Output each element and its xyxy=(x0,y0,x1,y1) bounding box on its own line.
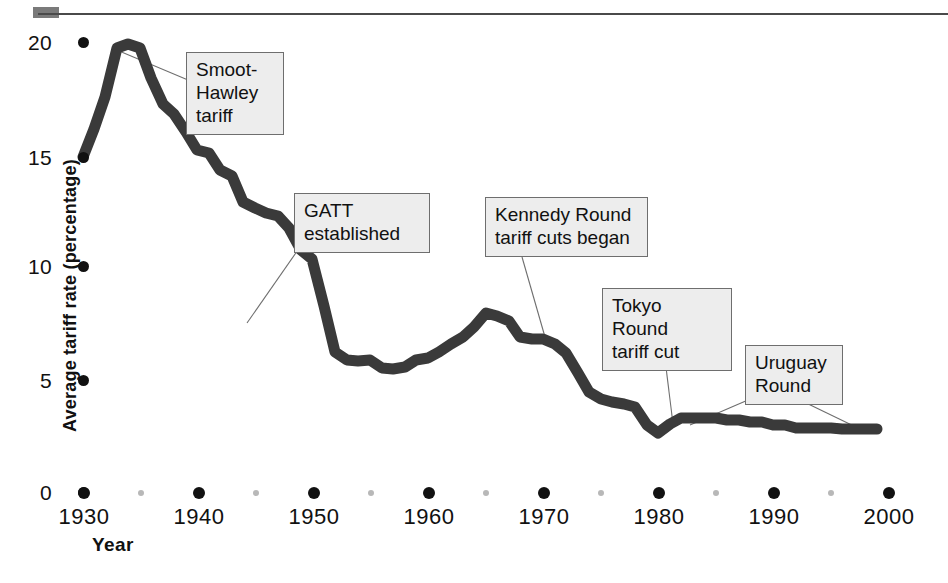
x-tick-dot-1995 xyxy=(828,490,834,496)
y-axis-title: Average tariff rate (percentage) xyxy=(60,136,81,456)
x-tick-label-1950: 1950 xyxy=(274,506,354,528)
annotation-smoot-hawley: Smoot- Hawley tariff xyxy=(186,52,284,135)
x-tick-dot-1955 xyxy=(368,490,374,496)
x-tick-dot-1960 xyxy=(423,487,435,499)
x-tick-dot-2000 xyxy=(883,487,895,499)
x-tick-dot-1970 xyxy=(538,487,550,499)
annotation-gatt: GATT established xyxy=(294,193,430,253)
y-tick-label-20: 20 xyxy=(8,32,52,53)
y-tick-dot-20 xyxy=(78,37,89,48)
x-tick-dot-1965 xyxy=(483,490,489,496)
y-tick-label-15: 15 xyxy=(8,147,52,168)
y-tick-label-5: 5 xyxy=(8,370,52,391)
leader-line-kennedy xyxy=(522,257,545,337)
y-tick-label-10: 10 xyxy=(8,256,52,277)
x-tick-label-1970: 1970 xyxy=(504,506,584,528)
x-tick-dot-1935 xyxy=(138,490,144,496)
x-tick-label-1960: 1960 xyxy=(389,506,469,528)
tariff-rate-figure: 20 15 10 5 0 1930 1940 1950 1960 1970 19… xyxy=(0,0,948,583)
x-tick-dot-1945 xyxy=(253,490,259,496)
x-tick-dot-1985 xyxy=(713,490,719,496)
x-axis-title: Year xyxy=(92,534,134,556)
x-tick-label-1940: 1940 xyxy=(159,506,239,528)
y-tick-label-0: 0 xyxy=(8,482,52,503)
x-tick-dot-1990 xyxy=(768,487,780,499)
annotation-tokyo-round: Tokyo Round tariff cut xyxy=(602,288,732,371)
x-tick-dot-1950 xyxy=(308,487,320,499)
x-tick-dot-1940 xyxy=(193,487,205,499)
leader-line-gatt xyxy=(247,247,300,323)
x-tick-label-1980: 1980 xyxy=(619,506,699,528)
x-tick-dot-1930 xyxy=(78,487,90,499)
x-tick-label-1990: 1990 xyxy=(734,506,814,528)
x-tick-dot-1980 xyxy=(653,487,665,499)
annotation-uruguay-round: Uruguay Round xyxy=(745,345,843,405)
x-tick-label-2000: 2000 xyxy=(849,506,929,528)
annotation-kennedy-round: Kennedy Round tariff cuts began xyxy=(485,197,648,257)
x-tick-label-1930: 1930 xyxy=(44,506,124,528)
x-tick-dot-1975 xyxy=(598,490,604,496)
